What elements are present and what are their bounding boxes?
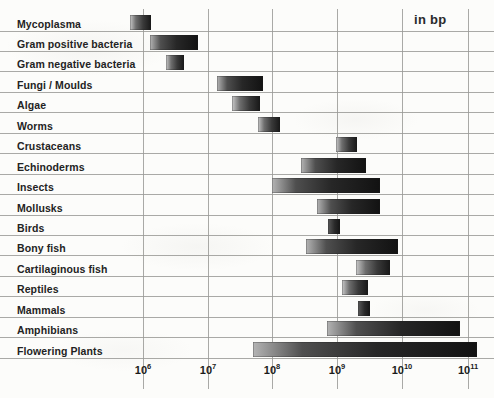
bar-amphibians <box>327 321 460 336</box>
gridline-vertical-7 <box>208 9 209 389</box>
category-label: Bony fish <box>17 242 66 255</box>
x-tick-label: 109 <box>329 364 345 376</box>
gridline-horizontal <box>0 276 494 277</box>
category-label: Fungi / Moulds <box>17 79 92 92</box>
bar-gram-positive-bacteria <box>150 35 198 50</box>
x-tick-label: 107 <box>200 364 216 376</box>
tick-exponent: 7 <box>212 362 216 371</box>
tick-exponent: 10 <box>404 362 412 371</box>
genome-size-chart: MycoplasmaGram positive bacteriaGram neg… <box>0 0 494 398</box>
gridline-vertical-11 <box>468 9 469 389</box>
gridline-vertical-6 <box>143 9 144 389</box>
unit-annotation: in bp <box>414 12 447 27</box>
category-label: Crustaceans <box>17 140 81 153</box>
category-label: Birds <box>17 222 44 235</box>
bar-algae <box>232 96 260 111</box>
gridline-horizontal <box>0 51 494 52</box>
category-label: Mammals <box>17 304 66 317</box>
gridline-horizontal <box>0 153 494 154</box>
category-label: Echinoderms <box>17 161 85 174</box>
tick-exponent: 9 <box>341 362 345 371</box>
bar-bony-fish <box>306 239 398 254</box>
gridline-horizontal <box>0 337 494 338</box>
tick-mantissa: 10 <box>329 364 341 376</box>
tick-exponent: 8 <box>276 362 280 371</box>
bar-fungi-moulds <box>217 76 263 91</box>
tick-exponent: 11 <box>470 362 478 371</box>
tick-mantissa: 10 <box>200 364 212 376</box>
bar-mycoplasma <box>130 15 151 30</box>
tick-mantissa: 10 <box>135 364 147 376</box>
bar-mollusks <box>317 199 380 214</box>
category-label: Amphibians <box>17 324 78 337</box>
category-label: Insects <box>17 181 54 194</box>
category-label: Reptiles <box>17 283 59 296</box>
category-label: Algae <box>17 99 46 112</box>
x-tick-label: 106 <box>135 364 151 376</box>
gridline-horizontal <box>0 358 494 359</box>
tick-mantissa: 10 <box>264 364 276 376</box>
bar-insects <box>272 178 380 193</box>
bar-gram-negative-bacteria <box>166 55 184 70</box>
gridline-horizontal <box>0 255 494 256</box>
x-tick-label: 1011 <box>458 364 478 376</box>
gridline-horizontal <box>0 71 494 72</box>
x-tick-label: 108 <box>264 364 280 376</box>
bar-reptiles <box>342 280 368 295</box>
gridline-horizontal <box>0 317 494 318</box>
bar-crustaceans <box>336 137 357 152</box>
x-tick-label: 1010 <box>392 364 413 376</box>
gridline-horizontal <box>0 194 494 195</box>
tick-mantissa: 10 <box>392 364 404 376</box>
gridline-horizontal <box>0 92 494 93</box>
tick-exponent: 6 <box>147 362 151 371</box>
gridline-horizontal <box>0 31 494 32</box>
category-label: Mollusks <box>17 202 63 215</box>
category-label: Worms <box>17 120 53 133</box>
gridline-vertical-8 <box>272 9 273 389</box>
category-label: Cartilaginous fish <box>17 263 107 276</box>
bar-echinoderms <box>301 158 366 173</box>
bar-flowering-plants <box>253 342 477 357</box>
bar-cartilaginous-fish <box>356 260 390 275</box>
bar-birds <box>328 219 340 234</box>
gridline-horizontal <box>0 235 494 236</box>
bar-worms <box>258 117 280 132</box>
tick-mantissa: 10 <box>458 364 470 376</box>
gridline-horizontal <box>0 296 494 297</box>
gridline-horizontal <box>0 133 494 134</box>
category-label: Gram negative bacteria <box>17 58 135 71</box>
category-label: Mycoplasma <box>17 18 81 31</box>
gridline-horizontal <box>0 215 494 216</box>
category-label: Gram positive bacteria <box>17 38 132 51</box>
gridline-horizontal <box>0 112 494 113</box>
gridline-horizontal <box>0 174 494 175</box>
category-label: Flowering Plants <box>17 345 103 358</box>
bar-mammals <box>358 301 370 316</box>
